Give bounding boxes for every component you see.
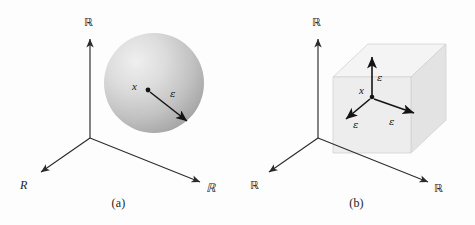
right-axis-label: ℝ xyxy=(434,182,443,195)
epsilon-label: ε xyxy=(170,88,175,99)
vertical-axis-label: ℝ xyxy=(84,16,93,29)
panel-a: ℝ R ℝ x ε (a) xyxy=(0,0,237,225)
center-point xyxy=(370,95,375,100)
left-axis-line xyxy=(269,138,318,172)
epsilon-label-left: ε xyxy=(353,119,358,130)
panel-b: ℝ ℝ ℝ x ε ε ε (b) xyxy=(238,0,475,225)
center-point xyxy=(146,88,151,93)
right-axis-line xyxy=(90,138,200,182)
point-label-x: x xyxy=(358,84,364,96)
panel-b-graphic: ℝ ℝ ℝ x ε ε ε xyxy=(238,0,475,225)
panel-a-caption: (a) xyxy=(0,196,237,211)
figure-container: ℝ R ℝ x ε (a) xyxy=(0,0,475,225)
left-axis-label: R xyxy=(19,178,28,192)
left-axis-line xyxy=(41,138,90,172)
left-axis-label: ℝ xyxy=(250,179,259,192)
vertical-axis-label: ℝ xyxy=(312,16,321,29)
cube-shape xyxy=(333,44,446,153)
epsilon-label-up: ε xyxy=(377,72,382,83)
right-axis-label: ℝ xyxy=(206,181,216,195)
panel-b-caption: (b) xyxy=(238,196,475,211)
point-label-x: x xyxy=(131,80,137,92)
epsilon-label-right: ε xyxy=(389,116,394,127)
sphere-shape xyxy=(104,33,204,133)
panel-a-graphic: ℝ R ℝ x ε xyxy=(0,0,237,225)
